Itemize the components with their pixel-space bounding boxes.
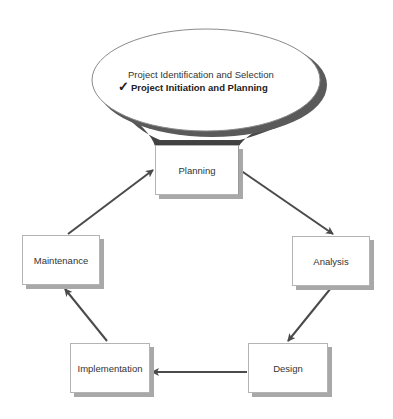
diagram-canvas bbox=[0, 0, 393, 419]
phase-box-implementation: Implementation bbox=[70, 343, 150, 393]
callout-item-initiation: ✓Project Initiation and Planning bbox=[118, 81, 318, 94]
callout-text: Project Identification and Selection ✓Pr… bbox=[118, 69, 318, 94]
checkmark-icon: ✓ bbox=[118, 79, 129, 94]
arrow-maintenance-to-planning bbox=[68, 170, 153, 234]
phase-box-design: Design bbox=[248, 343, 328, 393]
phase-label-planning: Planning bbox=[179, 165, 216, 176]
arrow-analysis-to-design bbox=[288, 288, 331, 341]
phase-box-planning: Planning bbox=[155, 145, 239, 195]
phase-label-implementation: Implementation bbox=[78, 363, 143, 374]
phase-box-maintenance: Maintenance bbox=[22, 235, 100, 285]
callout-item-identification: Project Identification and Selection bbox=[118, 69, 318, 81]
phase-label-maintenance: Maintenance bbox=[34, 255, 88, 266]
phase-box-analysis: Analysis bbox=[292, 236, 370, 286]
callout-item-initiation-label: Project Initiation and Planning bbox=[131, 82, 268, 93]
arrow-planning-to-analysis bbox=[240, 170, 333, 234]
phase-label-analysis: Analysis bbox=[313, 256, 348, 267]
phase-label-design: Design bbox=[273, 363, 303, 374]
arrow-implementation-to-maintenance bbox=[65, 289, 107, 341]
